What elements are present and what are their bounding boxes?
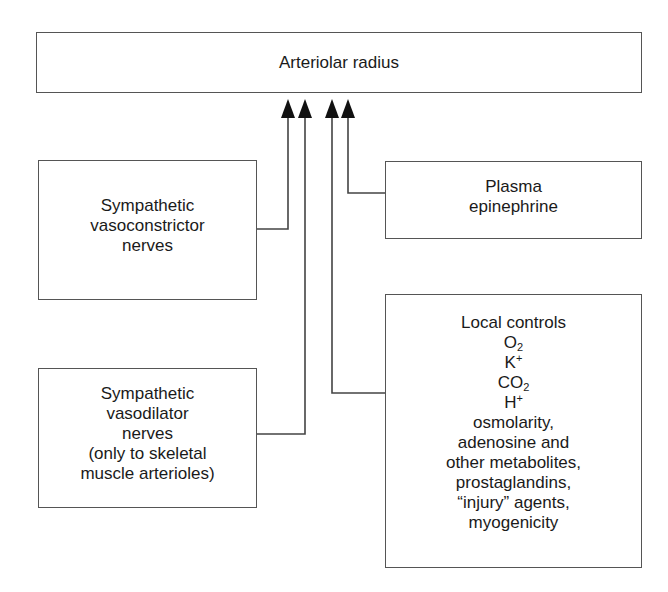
local-control-line-3: other metabolites, [446,453,581,473]
local-control-co2: CO2 [498,373,530,393]
sympathetic-vasoconstrictor-box: Sympathetic vasoconstrictor nerves [38,160,257,300]
co2-base: CO [498,373,524,392]
local-control-line-2: adenosine and [458,433,570,453]
k-base: K [505,353,516,372]
epinephrine-line-1: Plasma [485,177,542,197]
arrowhead-icon [298,99,312,118]
edge-vasodilator-to-radius [256,116,305,434]
local-control-h: H+ [504,393,523,413]
vasoconstrictor-line-3: nerves [122,236,173,256]
arrowhead-icon [341,99,355,118]
epinephrine-line-2: epinephrine [469,197,558,217]
h-base: H [504,393,516,412]
local-controls-box: Local controls O2 K+ CO2 H+ osmolarity, … [385,294,642,568]
local-control-o2: O2 [504,333,523,353]
vasodilator-line-2: vasodilator [106,404,188,424]
edge-local-controls-to-radius [332,116,385,393]
vasodilator-line-3: nerves [122,424,173,444]
local-control-k: K+ [505,353,523,373]
local-control-line-1: osmolarity, [473,413,554,433]
vasodilator-line-1: Sympathetic [101,384,195,404]
arteriolar-radius-label: Arteriolar radius [279,53,399,73]
vasoconstrictor-line-1: Sympathetic [101,196,195,216]
local-controls-title: Local controls [461,313,566,333]
vasoconstrictor-line-2: vasoconstrictor [90,216,204,236]
vasodilator-line-5: muscle arterioles) [80,464,214,484]
local-control-line-5: “injury” agents, [457,493,569,513]
local-control-line-4: prostaglandins, [456,473,571,493]
vasodilator-line-4: (only to skeletal [88,444,206,464]
co2-subscript: 2 [523,381,529,393]
edge-epinephrine-to-radius [348,116,385,193]
o2-base: O [504,333,517,352]
plasma-epinephrine-box: Plasma epinephrine [385,161,642,239]
local-control-line-6: myogenicity [469,513,559,533]
h-superscript: + [516,392,522,404]
sympathetic-vasodilator-box: Sympathetic vasodilator nerves (only to … [38,368,257,508]
arrowhead-icon [281,99,295,118]
k-superscript: + [516,352,522,364]
arteriolar-radius-box: Arteriolar radius [36,32,642,93]
arrowhead-icon [325,99,339,118]
edge-vasoconstrictor-to-radius [256,116,288,229]
